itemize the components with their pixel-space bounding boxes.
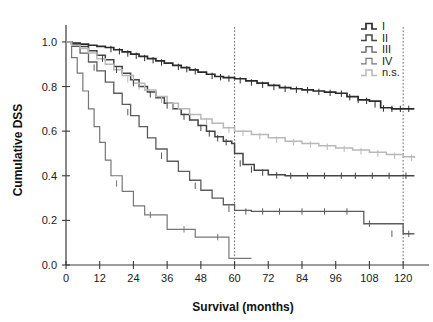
survival-curve-III bbox=[66, 42, 414, 234]
legend: IIIIIIIVn.s. bbox=[361, 20, 400, 78]
legend-item-III[interactable]: III bbox=[361, 43, 391, 55]
x-tick-label: 84 bbox=[296, 272, 308, 284]
legend-line-swatch bbox=[361, 24, 377, 30]
kaplan-meier-chart: 0.00.20.40.60.81.00122436486072849610812… bbox=[0, 0, 433, 322]
legend-item-II[interactable]: II bbox=[361, 32, 388, 44]
survival-curve-II bbox=[66, 42, 414, 176]
legend-label: n.s. bbox=[382, 66, 400, 78]
y-tick-label: 0.2 bbox=[42, 214, 57, 226]
x-tick-label: 120 bbox=[394, 272, 412, 284]
plot-canvas: 0.00.20.40.60.81.00122436486072849610812… bbox=[0, 0, 433, 322]
y-tick-label: 0.8 bbox=[42, 81, 57, 93]
legend-line-swatch bbox=[361, 70, 377, 76]
legend-line-swatch bbox=[361, 47, 377, 53]
axes bbox=[66, 25, 429, 265]
x-tick-label: 48 bbox=[195, 272, 207, 284]
y-tick-label: 0.4 bbox=[42, 170, 57, 182]
legend-line-swatch bbox=[361, 35, 377, 41]
legend-label: I bbox=[382, 20, 385, 32]
legend-item-I[interactable]: I bbox=[361, 20, 385, 32]
x-tick-label: 60 bbox=[228, 272, 240, 284]
x-tick-label: 24 bbox=[127, 272, 139, 284]
legend-label: II bbox=[382, 32, 388, 44]
x-tick-label: 96 bbox=[330, 272, 342, 284]
legend-item-IV[interactable]: IV bbox=[361, 55, 393, 67]
axis-ticks bbox=[62, 42, 403, 269]
legend-item-ns[interactable]: n.s. bbox=[361, 66, 400, 78]
legend-label: III bbox=[382, 43, 391, 55]
x-tick-label: 72 bbox=[262, 272, 274, 284]
y-tick-label: 0.6 bbox=[42, 125, 57, 137]
legend-line-swatch bbox=[361, 58, 377, 64]
legend-label: IV bbox=[382, 55, 393, 67]
y-tick-label: 1.0 bbox=[42, 36, 57, 48]
survival-curves bbox=[66, 42, 414, 258]
y-tick-label: 0.0 bbox=[42, 259, 57, 271]
x-tick-label: 12 bbox=[94, 272, 106, 284]
x-tick-label: 108 bbox=[360, 272, 378, 284]
x-tick-label: 0 bbox=[63, 272, 69, 284]
x-axis-title: Survival (months) bbox=[192, 300, 293, 314]
x-tick-label: 36 bbox=[161, 272, 173, 284]
survival-curve-IV bbox=[66, 42, 251, 258]
y-axis-title: Cumulative DSS bbox=[11, 104, 25, 197]
axis-tick-labels: 0.00.20.40.60.81.00122436486072849610812… bbox=[42, 36, 413, 284]
